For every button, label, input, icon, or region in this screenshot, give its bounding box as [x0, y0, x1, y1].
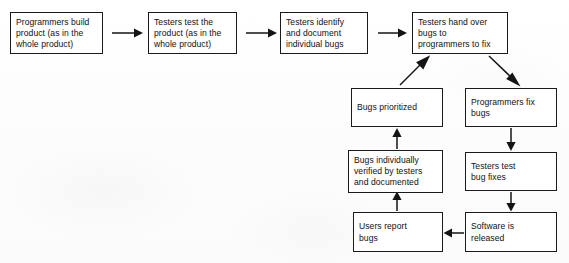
arrow-test-to-identify — [246, 28, 277, 37]
node-programmers-build: Programmers build product (as in the who… — [10, 12, 103, 54]
arrow-prioritized-to-handover — [400, 55, 430, 85]
node-testers-test-product: Testers test the product (as in the whol… — [148, 12, 237, 54]
node-programmers-fix-bugs: Programmers fix bugs — [465, 88, 557, 127]
arrow-identify-to-handover — [378, 28, 407, 37]
arrow-fix-to-testfixes — [506, 128, 515, 151]
arrow-build-to-test — [112, 28, 143, 37]
node-users-report-bugs: Users report bugs — [353, 212, 443, 252]
node-testers-identify-bugs: Testers identify and document individual… — [280, 12, 368, 54]
arrow-users-to-verified — [392, 192, 401, 212]
arrow-handover-to-fix — [489, 56, 521, 87]
node-software-released: Software is released — [465, 212, 557, 252]
node-testers-hand-over-bugs: Testers hand over bugs to programmers to… — [412, 12, 508, 54]
node-bugs-prioritized: Bugs prioritized — [351, 88, 443, 127]
node-bugs-verified-by-testers: Bugs individually verified by testers an… — [348, 150, 443, 193]
arrow-verified-to-prioritized — [392, 128, 401, 149]
arrow-released-to-users — [444, 228, 465, 237]
node-testers-test-bug-fixes: Testers test bug fixes — [465, 152, 557, 191]
flowchart-diagram: Programmers build product (as in the who… — [0, 0, 569, 263]
arrow-testfixes-to-released — [506, 192, 515, 212]
